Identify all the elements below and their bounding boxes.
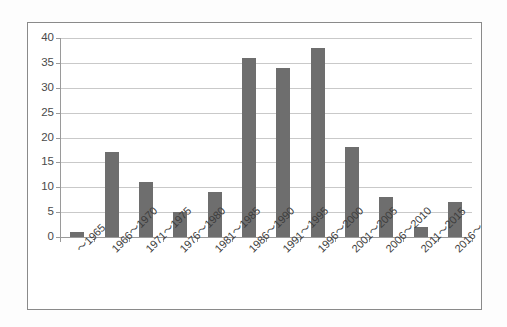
y-tick-label: 5 [26, 206, 54, 217]
y-tick-label: 20 [26, 132, 54, 143]
y-tick-label: 10 [26, 181, 54, 192]
y-tick-label: 35 [26, 57, 54, 68]
y-tick-label: 30 [26, 82, 54, 93]
y-tick-label: 25 [26, 107, 54, 118]
bar [105, 152, 119, 237]
y-tick-label: 15 [26, 156, 54, 167]
y-tick-label: 40 [26, 32, 54, 43]
y-axis-tick-labels: 0510152025303540 [22, 0, 54, 327]
x-tick-mark [60, 238, 61, 242]
plot-area [60, 38, 472, 237]
y-tick-label: 0 [26, 231, 54, 242]
bar-chart-figure: 0510152025303540 〜19651966〜19701971〜1975… [0, 0, 507, 327]
